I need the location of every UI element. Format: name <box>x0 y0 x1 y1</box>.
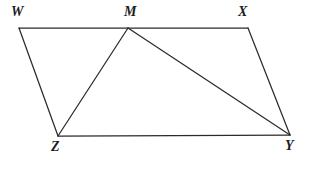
segment-mz <box>58 28 128 136</box>
vertex-label-y: Y <box>285 139 294 153</box>
figure-canvas <box>0 0 309 169</box>
segment-my <box>128 28 290 135</box>
vertex-label-w: W <box>11 5 23 19</box>
vertex-label-z: Z <box>51 140 60 154</box>
segment-zw <box>19 28 58 136</box>
vertex-label-m: M <box>124 5 136 19</box>
segment-xy <box>248 28 290 135</box>
geometry-figure: W M X Z Y <box>0 0 309 169</box>
segment-yz <box>58 135 290 136</box>
vertex-label-x: X <box>238 5 247 19</box>
